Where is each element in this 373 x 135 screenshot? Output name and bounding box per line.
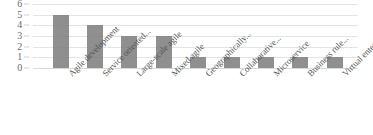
x-axis-tick-label: Virtual enterprise (341, 72, 347, 78)
y-axis-tick-label: 4 (17, 20, 22, 30)
gridline (33, 36, 358, 37)
y-axis-tick-mark (24, 46, 29, 47)
y-axis-tick-label: 1 (17, 52, 22, 62)
bar (53, 15, 69, 68)
x-axis-tick-label: Service oriented... (101, 72, 107, 78)
y-axis-tick-mark (24, 36, 29, 37)
x-axis-tick-label: Large-scale agile (135, 72, 141, 78)
y-axis: 6543210 (0, 0, 31, 72)
y-axis-tick-label: 6 (17, 0, 22, 9)
y-axis-tick-mark (24, 57, 29, 58)
gridline (33, 15, 358, 16)
x-axis-tick-label: Business rule... (306, 72, 312, 78)
x-axis: Agile developmentService oriented...Larg… (0, 68, 373, 135)
gridline (33, 25, 358, 26)
y-axis-tick-mark (24, 25, 29, 26)
y-axis-tick-mark (24, 4, 29, 5)
x-axis-tick-label: Agile development (67, 72, 73, 78)
bar-chart: 6543210 Agile developmentService oriente… (0, 0, 373, 135)
x-axis-tick-label: Geographically... (204, 72, 210, 78)
x-axis-tick-label: Mixed agile (170, 72, 176, 78)
y-axis-tick-label: 2 (17, 42, 22, 52)
y-axis-tick-mark (24, 14, 29, 15)
x-axis-tick-label: Collaborative... (238, 72, 244, 78)
y-axis-tick-label: 5 (17, 10, 22, 20)
x-axis-tick-label: Microservice (272, 72, 278, 78)
y-axis-tick-label: 3 (17, 31, 22, 41)
gridline (33, 4, 358, 5)
